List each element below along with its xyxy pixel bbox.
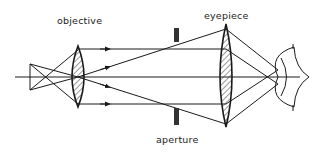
objective-lens [72, 46, 84, 107]
eyepiece-lens [220, 24, 232, 127]
aperture-stop-top [174, 28, 179, 42]
aperture-label: aperture [156, 134, 199, 145]
eyepiece-label: eyepiece [204, 10, 249, 21]
objective-label: objective [57, 15, 102, 26]
aperture-stop-bottom [174, 108, 179, 125]
